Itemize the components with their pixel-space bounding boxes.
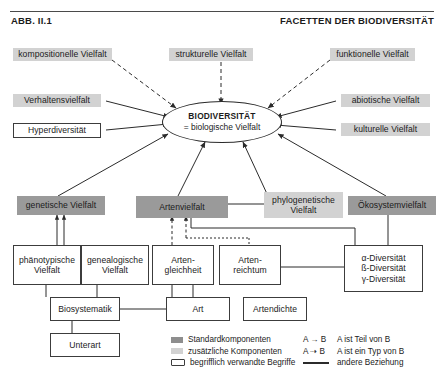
node-verhaltensvielfalt[interactable]: Verhaltensvielfalt	[13, 94, 101, 107]
node-phylogenetische-vielfalt[interactable]: phylogenetische Vielfalt	[264, 192, 343, 218]
diversitaet-gamma: γ-Diversität	[362, 274, 406, 285]
legend-item-other: andere Beziehung	[303, 357, 404, 369]
swatch-standard-icon	[171, 337, 183, 343]
node-artengleichheit[interactable]: Arten-gleichheit	[152, 245, 214, 285]
node-kulturelle-vielfalt[interactable]: kulturelle Vielfalt	[341, 123, 430, 136]
swatch-related-icon	[171, 359, 185, 366]
legend-label-typeof: A ist ein Typ von B	[337, 346, 404, 358]
swatch-additional-icon	[171, 348, 183, 354]
legend-item-related: begrifflich verwandte Begriffe	[171, 357, 295, 369]
legend-label-partof: A ist Teil von B	[337, 334, 390, 346]
legend-label-additional: zusätzliche Komponenten	[188, 346, 282, 358]
node-funktionelle-vielfalt[interactable]: funktionelle Vielfalt	[330, 48, 415, 61]
node-strukturelle-vielfalt[interactable]: strukturelle Vielfalt	[169, 48, 253, 61]
node-artenreichtum[interactable]: Arten-reichtum	[219, 245, 281, 285]
diversitaet-alpha: α-Diversität	[361, 253, 405, 264]
node-genealogische-vielfalt[interactable]: genealogische Vielfalt	[81, 245, 149, 285]
legend-item-typeof: A ⇢ B A ist ein Typ von B	[303, 346, 404, 358]
center-title: BIODIVERSITÄT	[188, 111, 255, 122]
node-hyperdiversitaet[interactable]: Hyperdiversität	[13, 123, 101, 138]
diversitaet-beta: ß-Diversität	[361, 263, 406, 274]
plain-line-icon	[303, 362, 337, 363]
node-unterart[interactable]: Unterart	[50, 333, 120, 357]
arrow-solid-icon: A → B	[303, 334, 337, 346]
node-biosystematik[interactable]: Biosystematik	[50, 297, 120, 321]
legend-relations: A → B A ist Teil von B A ⇢ B A ist ein T…	[303, 334, 404, 369]
node-oekosystemvielfalt[interactable]: Ökosystemvielfalt	[348, 196, 436, 215]
node-artenvielfalt[interactable]: Artenvielfalt	[136, 196, 228, 218]
figure-canvas: ABB. II.1 FACETTEN DER BIODIVERSITÄT	[0, 0, 444, 388]
node-abiotische-vielfalt[interactable]: abiotische Vielfalt	[341, 94, 430, 107]
legend-label-standard: Standardkomponenten	[188, 334, 271, 346]
legend-swatches: Standardkomponenten zusätzliche Komponen…	[171, 334, 295, 369]
legend-label-other: andere Beziehung	[337, 357, 403, 369]
legend-item-additional: zusätzliche Komponenten	[171, 346, 295, 358]
node-kompositionelle-vielfalt[interactable]: kompositionelle Vielfalt	[13, 48, 112, 61]
legend-item-standard: Standardkomponenten	[171, 334, 295, 346]
legend-item-partof: A → B A ist Teil von B	[303, 334, 404, 346]
node-artendichte[interactable]: Artendichte	[243, 297, 307, 321]
legend-label-related: begrifflich verwandte Begriffe	[190, 357, 295, 369]
arrow-dashed-icon: A ⇢ B	[303, 346, 337, 358]
node-art[interactable]: Art	[166, 297, 230, 321]
node-genetische-vielfalt[interactable]: genetische Vielfalt	[17, 196, 105, 215]
node-biodiversitaet-center[interactable]: BIODIVERSITÄT = biologische Vielfalt	[162, 101, 282, 143]
node-diversitaeten[interactable]: α-Diversität ß-Diversität γ-Diversität	[344, 245, 423, 292]
center-subtitle: = biologische Vielfalt	[184, 122, 260, 133]
node-phaenotypische-vielfalt[interactable]: phänotypische Vielfalt	[13, 245, 81, 285]
